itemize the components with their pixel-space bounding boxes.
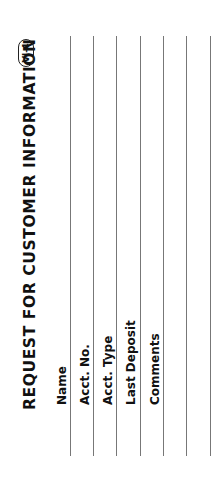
rule-line (116, 36, 117, 456)
form-title: REQUEST FOR CUSTOMER INFORMATION (21, 38, 39, 410)
field-label-comments: Comments (148, 333, 162, 405)
rule-line (210, 36, 211, 456)
customer-info-form: REQUEST FOR CUSTOMER INFORMATION VI-4 Na… (0, 0, 218, 485)
rule-line (93, 36, 94, 456)
field-label-acct-no: Acct. No. (78, 344, 92, 405)
form-id-badge: VI-4 (18, 39, 34, 67)
rule-line (186, 36, 187, 456)
field-label-name: Name (55, 366, 69, 405)
rule-line (163, 36, 164, 456)
field-label-acct-type: Acct. Type (101, 336, 115, 405)
field-label-last-deposit: Last Deposit (124, 320, 138, 405)
rule-line (140, 36, 141, 456)
rule-line (70, 36, 71, 456)
